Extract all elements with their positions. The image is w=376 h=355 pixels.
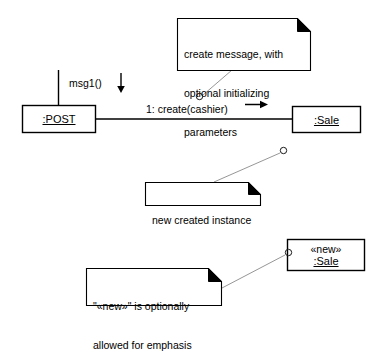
new-sale-object[interactable]: «new» :Sale <box>287 239 365 271</box>
down-arrow-icon <box>117 86 125 93</box>
sale-object[interactable]: :Sale <box>292 106 361 133</box>
new-sale-stereotype-label: «new» <box>287 243 365 255</box>
note-emphasis-line-2: allowed for emphasis <box>93 339 223 352</box>
note-create-line-1: create message, with <box>184 48 306 61</box>
note-emphasis-leader-line <box>222 255 285 288</box>
note-new-created-instance-text: new created instance <box>152 188 264 253</box>
create-message-label: 1: create(cashier) <box>146 103 228 116</box>
new-sale-object-label: :Sale <box>287 255 365 267</box>
post-object-label: :POST <box>22 113 96 125</box>
post-object[interactable]: :POST <box>22 105 96 133</box>
sale-object-label: :Sale <box>292 114 361 126</box>
note-create-message-text: create message, with optional initializi… <box>184 22 306 165</box>
note-emphasis-line-1: "«new»" is optionally <box>93 300 223 313</box>
msg1-message-label: msg1() <box>69 77 102 90</box>
note-create-line-2: optional initializing <box>184 87 306 100</box>
note-new-emphasis-text: "«new»" is optionally allowed for emphas… <box>93 274 223 355</box>
note-create-line-3: parameters <box>184 126 306 139</box>
note-instance-line-1: new created instance <box>152 214 264 227</box>
